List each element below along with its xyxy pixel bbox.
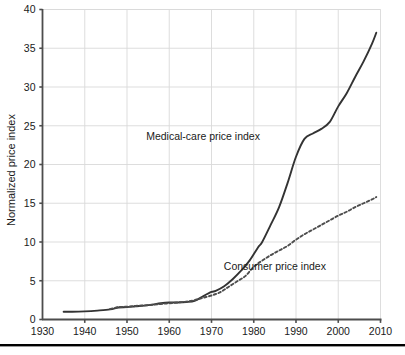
x-tick-label: 1950 — [115, 325, 139, 337]
y-tick-label: 20 — [24, 158, 36, 170]
x-tick-label: 2000 — [327, 325, 351, 337]
price-index-line-chart: 0510152025303540 19301940195019601970198… — [0, 0, 405, 355]
medical-care-price-index-label: Medical-care price index — [146, 130, 261, 142]
y-tick-label: 40 — [24, 3, 36, 15]
x-tick-label: 1960 — [158, 325, 182, 337]
x-tick-label: 1940 — [73, 325, 97, 337]
y-tick-label: 35 — [24, 42, 36, 54]
y-tick-label: 15 — [24, 197, 36, 209]
x-tick-label: 1980 — [242, 325, 266, 337]
chart-background — [0, 0, 405, 355]
y-tick-label: 25 — [24, 120, 36, 132]
x-tick-label: 2010 — [369, 325, 393, 337]
x-tick-label: 1990 — [284, 325, 308, 337]
y-tick-label: 5 — [30, 275, 36, 287]
x-tick-label: 1930 — [31, 325, 55, 337]
x-axis-tick-labels: 193019401950196019701980199020002010 — [31, 325, 393, 337]
x-tick-label: 1970 — [200, 325, 224, 337]
consumer-price-index-label: Consumer price index — [224, 260, 327, 272]
y-tick-label: 30 — [24, 81, 36, 93]
chart-figure: 0510152025303540 19301940195019601970198… — [0, 0, 405, 355]
y-tick-label: 0 — [30, 313, 36, 325]
y-axis-title: Normalized price index — [5, 114, 17, 226]
bottom-divider-rule — [0, 344, 405, 346]
y-tick-label: 10 — [24, 236, 36, 248]
